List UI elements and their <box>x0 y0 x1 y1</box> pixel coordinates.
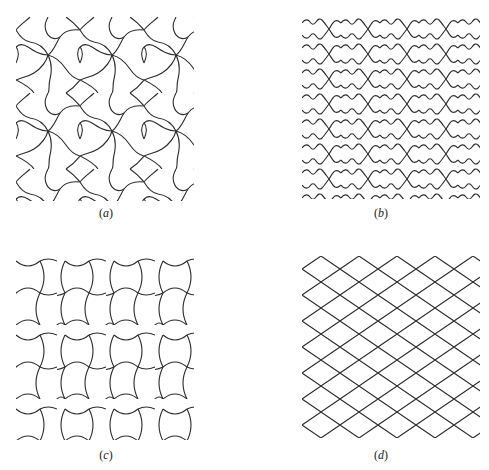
caption-c: (c) <box>86 448 126 463</box>
panel-b <box>302 17 480 199</box>
tessellation-a-image <box>16 17 194 201</box>
caption-c-letter: c <box>103 448 108 462</box>
tessellation-d-image <box>302 256 480 438</box>
tessellation-c-image <box>16 255 194 440</box>
caption-a: (a) <box>86 206 126 221</box>
panel-d <box>302 256 480 438</box>
caption-d-letter: d <box>378 448 384 462</box>
caption-a-letter: a <box>103 206 109 220</box>
panel-c <box>16 255 194 440</box>
caption-b: (b) <box>361 206 401 221</box>
tessellation-b-image <box>302 17 480 199</box>
panel-a <box>16 17 194 201</box>
caption-b-letter: b <box>378 206 384 220</box>
caption-d: (d) <box>361 448 401 463</box>
